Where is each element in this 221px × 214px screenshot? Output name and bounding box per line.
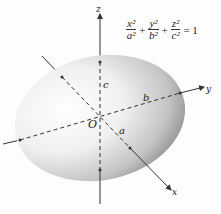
plus-sign: + xyxy=(139,24,145,36)
equals-one: = 1 xyxy=(183,24,197,36)
intercept-dot xyxy=(61,76,64,79)
semi-axis-b-label: b xyxy=(143,92,149,103)
plus-sign: + xyxy=(162,24,168,36)
intercept-dot xyxy=(179,92,182,95)
x-term: x² a² xyxy=(126,18,136,41)
intercept-dot xyxy=(99,169,102,172)
y-axis-label: y xyxy=(205,84,212,94)
origin-label: O xyxy=(88,118,97,131)
y-axis-right xyxy=(180,87,204,93)
ellipsoid-figure: z y x c b a O x² a² + y² b² + z² c² = 1 xyxy=(0,0,221,214)
intercept-dot xyxy=(19,139,22,142)
z-axis-label: z xyxy=(95,4,101,14)
intercept-dot xyxy=(129,147,132,150)
z-term: z² c² xyxy=(171,18,181,41)
intercept-dot xyxy=(99,61,102,64)
semi-axis-a-label: a xyxy=(119,125,125,136)
x-axis-label: x xyxy=(172,187,177,197)
ellipsoid-equation: x² a² + y² b² + z² c² = 1 xyxy=(126,18,198,41)
semi-axis-c-label: c xyxy=(103,79,109,90)
y-term: y² b² xyxy=(148,18,158,41)
